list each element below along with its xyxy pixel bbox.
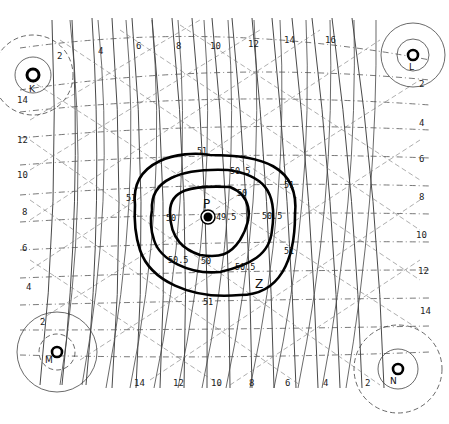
svg-text:12: 12 xyxy=(173,378,184,388)
svg-text:8: 8 xyxy=(22,207,27,217)
svg-text:10: 10 xyxy=(210,41,221,51)
svg-text:51: 51 xyxy=(203,297,213,307)
svg-text:4: 4 xyxy=(419,118,424,128)
svg-text:12: 12 xyxy=(17,135,28,145)
svg-text:4: 4 xyxy=(98,46,103,56)
svg-text:51: 51 xyxy=(126,193,136,203)
svg-text:14: 14 xyxy=(284,35,295,45)
svg-text:50.5: 50.5 xyxy=(230,166,250,176)
contour-diagram: P 49.5 Z 51 51 51 51 51 50.5 50.5 50.5 5… xyxy=(0,0,449,424)
svg-text:51: 51 xyxy=(284,246,294,256)
svg-text:2: 2 xyxy=(57,51,62,61)
svg-text:50.5: 50.5 xyxy=(235,262,255,272)
svg-text:51: 51 xyxy=(284,180,294,190)
svg-text:4: 4 xyxy=(26,282,31,292)
svg-text:6: 6 xyxy=(419,154,424,164)
svg-text:10: 10 xyxy=(17,170,28,180)
svg-text:50.5: 50.5 xyxy=(262,211,282,221)
svg-text:2: 2 xyxy=(365,378,370,388)
svg-text:50: 50 xyxy=(237,188,247,198)
svg-text:4: 4 xyxy=(323,378,328,388)
svg-text:2: 2 xyxy=(419,79,424,89)
svg-text:10: 10 xyxy=(211,378,222,388)
svg-text:12: 12 xyxy=(418,266,429,276)
svg-text:N: N xyxy=(390,376,397,386)
point-p-label: P xyxy=(203,197,210,211)
svg-text:6: 6 xyxy=(22,243,27,253)
svg-text:14: 14 xyxy=(134,378,145,388)
svg-text:14: 14 xyxy=(420,306,431,316)
svg-text:M: M xyxy=(45,355,53,365)
svg-text:12: 12 xyxy=(248,39,259,49)
svg-text:8: 8 xyxy=(249,378,254,388)
svg-text:50: 50 xyxy=(201,256,211,266)
svg-text:14: 14 xyxy=(17,95,28,105)
svg-text:6: 6 xyxy=(285,378,290,388)
point-p-value: 49.5 xyxy=(216,212,236,222)
svg-text:51: 51 xyxy=(197,146,207,156)
svg-text:8: 8 xyxy=(176,41,181,51)
svg-text:50.5: 50.5 xyxy=(168,255,188,265)
svg-text:10: 10 xyxy=(416,230,427,240)
svg-text:16: 16 xyxy=(325,35,336,45)
svg-text:L: L xyxy=(409,62,414,72)
svg-text:6: 6 xyxy=(136,41,141,51)
svg-text:2: 2 xyxy=(40,317,45,327)
svg-text:50: 50 xyxy=(166,213,176,223)
marker-z-label: Z xyxy=(255,277,263,291)
svg-text:8: 8 xyxy=(419,192,424,202)
